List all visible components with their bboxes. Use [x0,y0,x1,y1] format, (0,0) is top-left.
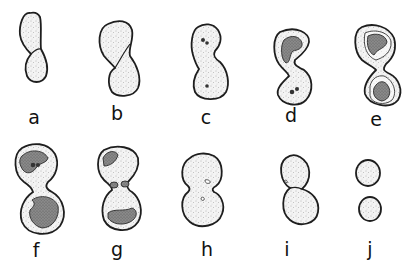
cell-division-figure [0,0,404,271]
panel-label-d: d [281,106,301,125]
cell-panel-a [20,13,47,82]
cell-panel-d [274,29,311,104]
panel-label-a: a [24,108,44,127]
panel-label-e: e [366,110,386,129]
cell-panel-f [15,144,64,234]
cell-panel-i [281,155,318,224]
cell-panel-c [192,24,228,99]
panel-label-b: b [107,104,127,123]
panel-label-j: j [360,240,380,259]
panel-label-f: f [26,241,46,260]
cell-panel-b [99,21,139,96]
panel-label-g: g [107,240,127,259]
cell-panel-h [182,154,223,227]
cell-panel-j [356,160,381,221]
panel-label-i: i [277,240,297,259]
cell-panel-e [355,25,400,105]
cell-panel-g [98,147,141,230]
panel-label-h: h [197,240,217,259]
panel-label-c: c [196,108,216,127]
